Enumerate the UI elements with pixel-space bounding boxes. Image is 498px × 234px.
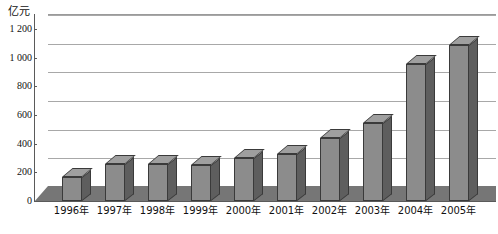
bar-front-face [449, 45, 469, 201]
bar-column [105, 164, 125, 201]
x-tick-label: 1998年 [136, 205, 179, 217]
y-tick-label: 800 [0, 81, 32, 91]
bar-front-face [191, 165, 211, 201]
x-tick-label: 2004年 [394, 205, 437, 217]
bar-front-face [105, 164, 125, 201]
x-tick-label: 2000年 [222, 205, 265, 217]
y-tick-mark [34, 115, 37, 116]
bar-front-face [363, 123, 383, 201]
bar-side-face [211, 158, 220, 201]
y-tick-mark [34, 172, 37, 173]
x-axis-labels: 1996年1997年1998年1999年2000年2001年2002年2003年… [34, 205, 496, 229]
bar-side-face [168, 157, 177, 201]
bar-front-face [406, 64, 426, 201]
y-tick-label: 0 [0, 196, 32, 206]
y-tick-label: 400 [0, 139, 32, 149]
x-tick-label: 1999年 [179, 205, 222, 217]
bar-front-face [234, 158, 254, 201]
bar-side-face [254, 151, 263, 201]
x-tick-label: 2002年 [308, 205, 351, 217]
chart-container: 亿元 02004006008001 0001 200 1996年1997年199… [0, 0, 498, 234]
y-tick-mark [34, 58, 37, 59]
bar-series [34, 14, 496, 202]
x-tick-label: 2005年 [437, 205, 480, 217]
y-tick-label: 1 200 [0, 24, 32, 34]
bar-column [234, 158, 254, 201]
bar-side-face [383, 116, 392, 201]
bar-side-face [340, 131, 349, 201]
x-tick-label: 2001年 [265, 205, 308, 217]
bar-column [191, 165, 211, 201]
bar-column [62, 177, 82, 201]
bar-front-face [277, 154, 297, 201]
bar-side-face [125, 157, 134, 201]
bar-front-face [320, 138, 340, 201]
bar-front-face [148, 164, 168, 201]
bar-column [449, 45, 469, 201]
y-tick-label: 1 000 [0, 53, 32, 63]
x-tick-label: 2003年 [351, 205, 394, 217]
y-tick-mark [34, 29, 37, 30]
y-tick-mark [34, 144, 37, 145]
y-tick-label: 200 [0, 167, 32, 177]
bar-column [320, 138, 340, 201]
bar-column [363, 123, 383, 201]
y-tick-label: 600 [0, 110, 32, 120]
y-tick-mark [34, 201, 37, 202]
bar-column [277, 154, 297, 201]
bar-side-face [297, 147, 306, 201]
x-tick-label: 1996年 [50, 205, 93, 217]
bar-side-face [426, 57, 435, 201]
y-tick-mark [34, 86, 37, 87]
bar-front-face [62, 177, 82, 201]
bar-column [148, 164, 168, 201]
x-tick-label: 1997年 [93, 205, 136, 217]
y-axis-unit-label: 亿元 [8, 6, 30, 17]
bar-column [406, 64, 426, 201]
bar-side-face [469, 38, 478, 201]
